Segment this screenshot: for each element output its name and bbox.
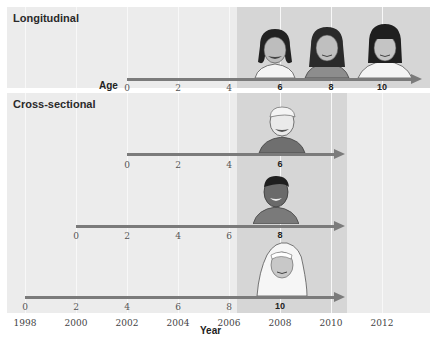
year-label: 2008: [269, 318, 292, 328]
age-tick: 4: [226, 83, 232, 93]
year-label: 2012: [371, 318, 394, 328]
gridline: [76, 7, 77, 313]
cohort-2-age-arrow: [76, 225, 335, 228]
age-axis-label: Age: [99, 80, 118, 91]
age-tick: 8: [328, 82, 333, 92]
age-tick: 8: [277, 230, 282, 240]
age-tick: 6: [277, 159, 282, 169]
age-tick: 4: [175, 231, 181, 241]
age-tick: 10: [275, 301, 285, 311]
cohort-3-age-arrow: [25, 296, 335, 299]
year-axis-label: Year: [200, 325, 221, 336]
boy-age-8-figure: [253, 173, 299, 224]
girl-in-hijab-age-10-figure: [255, 241, 309, 296]
age-tick: 2: [73, 302, 79, 312]
year-label: 2010: [320, 318, 343, 328]
longitudinal-age-arrow: [127, 78, 412, 81]
girl-age-8-figure: [303, 25, 351, 78]
age-tick: 6: [175, 302, 181, 312]
age-tick: 0: [73, 231, 79, 241]
age-tick: 10: [377, 82, 387, 92]
age-tick: 4: [124, 302, 130, 312]
age-tick: 0: [22, 302, 28, 312]
age-tick: 4: [226, 160, 232, 170]
age-tick: 0: [124, 160, 130, 170]
year-label: 2002: [116, 318, 139, 328]
age-tick: 0: [124, 83, 130, 93]
age-tick: 6: [226, 231, 232, 241]
girl-age-6-figure: [252, 26, 298, 78]
cross-sectional-title: Cross-sectional: [13, 98, 96, 110]
longitudinal-title: Longitudinal: [13, 12, 79, 24]
girl-age-10-figure: [356, 23, 414, 78]
age-tick: 6: [277, 82, 282, 92]
boy-age-6-figure: [257, 105, 307, 153]
year-label: 2004: [167, 318, 190, 328]
panel-divider: [7, 88, 430, 93]
cohort-1-age-arrow: [127, 153, 335, 156]
cross-sectional-panel: [7, 93, 430, 313]
gridline: [25, 7, 26, 313]
age-tick: 2: [175, 83, 181, 93]
age-tick: 2: [124, 231, 130, 241]
year-label: 1998: [14, 318, 37, 328]
age-tick: 8: [226, 302, 232, 312]
year-label: 2000: [65, 318, 88, 328]
age-tick: 2: [175, 160, 181, 170]
